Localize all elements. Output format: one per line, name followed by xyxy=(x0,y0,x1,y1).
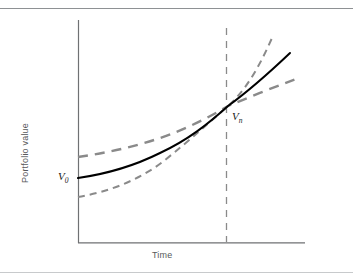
initial-value-symbol: V xyxy=(58,170,65,182)
bottom-divider-rule xyxy=(0,272,353,273)
initial-value-subscript: 0 xyxy=(65,176,69,185)
baseline-path-curve xyxy=(78,53,290,178)
x-axis-title: Time xyxy=(152,250,172,260)
horizon-value-label: Vn xyxy=(232,110,242,125)
horizon-value-symbol: V xyxy=(232,110,239,122)
low-risk-path-curve xyxy=(78,79,296,157)
horizon-value-subscript: n xyxy=(239,116,243,125)
y-axis-title: Portfolio value xyxy=(20,107,30,199)
chart-plot-area xyxy=(0,0,353,278)
figure-root: Portfolio value Time V0 Vn xyxy=(0,0,353,278)
initial-value-label: V0 xyxy=(58,170,68,185)
